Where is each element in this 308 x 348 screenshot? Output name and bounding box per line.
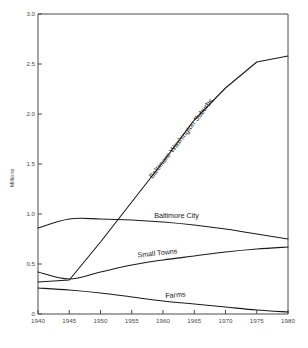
y-tick-label: 1.0 (26, 210, 35, 217)
y-axis-title: Millions (9, 168, 15, 187)
line-chart: 00.51.01.52.02.53.0 19401945195019551960… (0, 0, 308, 348)
x-tick-label: 1950 (94, 317, 108, 324)
y-tick-label: 0.5 (26, 260, 35, 267)
series-label-1: Baltimore City (154, 211, 199, 220)
x-tick-label: 1960 (156, 317, 170, 324)
y-tick-label: 2.0 (26, 110, 35, 117)
x-tick-label: 1965 (187, 317, 201, 324)
x-tick-label: 1980 (281, 317, 295, 324)
series-label-3: Farms (165, 289, 186, 300)
y-tick-label: 1.5 (26, 160, 35, 167)
x-tick-label: 1940 (31, 317, 45, 324)
x-tick-label: 1975 (250, 317, 264, 324)
x-tick-label: 1955 (125, 317, 139, 324)
y-tick-label: 3.0 (26, 10, 35, 17)
chart-container: 00.51.01.52.02.53.0 19401945195019551960… (0, 0, 308, 348)
x-tick-label: 1970 (219, 317, 233, 324)
x-tick-label: 1945 (62, 317, 76, 324)
y-tick-label: 2.5 (26, 60, 35, 67)
